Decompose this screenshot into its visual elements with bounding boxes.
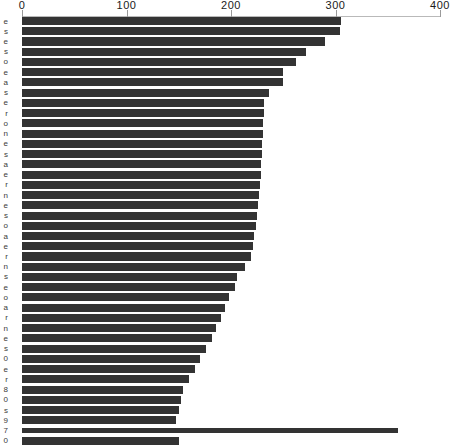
- bar[interactable]: [22, 345, 206, 353]
- bar[interactable]: [22, 191, 259, 199]
- bar[interactable]: [22, 89, 269, 97]
- bar-row: [0, 181, 459, 189]
- bar-row: [0, 17, 459, 25]
- bar[interactable]: [22, 27, 340, 35]
- bar[interactable]: [22, 201, 258, 209]
- bar-row: [0, 89, 459, 97]
- bar-row: [0, 68, 459, 76]
- bar-row: [0, 293, 459, 301]
- bar[interactable]: [22, 314, 221, 322]
- bar[interactable]: [22, 232, 254, 240]
- bar-row: [0, 242, 459, 250]
- bar[interactable]: [22, 324, 216, 332]
- x-tick-label-400: 400: [430, 0, 450, 11]
- x-tick-label-100: 100: [117, 0, 137, 11]
- bar-row: [0, 345, 459, 353]
- bar[interactable]: [22, 130, 263, 138]
- bar-row: [0, 252, 459, 260]
- bar-row: [0, 304, 459, 312]
- bar-row: [0, 283, 459, 291]
- x-tick-mark-100: [127, 10, 128, 17]
- bar-row: [0, 273, 459, 281]
- bar[interactable]: [22, 160, 261, 168]
- bar-row: [0, 48, 459, 56]
- x-tick-mark-400: [440, 10, 441, 17]
- bar[interactable]: [22, 99, 264, 107]
- bar-row: [0, 427, 459, 435]
- bar-row: [0, 416, 459, 424]
- bar-chart: esesoeaseronesaernesoaernseoarnes0er80s9…: [0, 0, 459, 447]
- bar[interactable]: [22, 37, 325, 45]
- x-tick-label-300: 300: [326, 0, 346, 11]
- x-axis: 0100200300400: [0, 0, 459, 17]
- bar[interactable]: [22, 355, 200, 363]
- bar[interactable]: [22, 48, 306, 56]
- bar[interactable]: [22, 375, 189, 383]
- bar-row: [0, 314, 459, 322]
- bar-row: [0, 396, 459, 404]
- bar-row: [0, 78, 459, 86]
- bar-row: [0, 355, 459, 363]
- x-tick-label-0: 0: [19, 0, 26, 11]
- bar[interactable]: [22, 334, 212, 342]
- bar-row: [0, 232, 459, 240]
- bar-row: [0, 191, 459, 199]
- bar[interactable]: [22, 68, 283, 76]
- bar-row: [0, 365, 459, 373]
- bar[interactable]: [22, 181, 260, 189]
- bar[interactable]: [22, 17, 341, 25]
- bar-row: [0, 58, 459, 66]
- bar-row: [0, 437, 459, 445]
- bar-row: [0, 140, 459, 148]
- bar[interactable]: [22, 406, 179, 414]
- bar-row: [0, 334, 459, 342]
- bar-row: [0, 324, 459, 332]
- bar[interactable]: [22, 416, 176, 424]
- x-tick-mark-0: [22, 10, 23, 17]
- x-tick-label-200: 200: [221, 0, 241, 11]
- x-tick-mark-200: [231, 10, 232, 17]
- bar-row: [0, 222, 459, 230]
- plot-area: [0, 17, 459, 447]
- bar[interactable]: [22, 140, 262, 148]
- bar-row: [0, 150, 459, 158]
- bar[interactable]: [22, 283, 235, 291]
- x-tick-mark-300: [336, 10, 337, 17]
- bar[interactable]: [22, 273, 237, 281]
- bar-row: [0, 212, 459, 220]
- bar[interactable]: [22, 304, 225, 312]
- bar[interactable]: [22, 437, 179, 445]
- bar[interactable]: [22, 263, 245, 271]
- bar-row: [0, 406, 459, 414]
- bar-row: [0, 263, 459, 271]
- bar[interactable]: [22, 109, 264, 117]
- bar[interactable]: [22, 171, 261, 179]
- bar[interactable]: [22, 58, 296, 66]
- bar-row: [0, 201, 459, 209]
- bar-row: [0, 119, 459, 127]
- bar-row: [0, 386, 459, 394]
- bar-row: [0, 99, 459, 107]
- bar[interactable]: [22, 119, 263, 127]
- bar[interactable]: [22, 242, 253, 250]
- bar[interactable]: [22, 150, 262, 158]
- bar-row: [0, 171, 459, 179]
- bar-row: [0, 27, 459, 35]
- bar[interactable]: [22, 428, 398, 433]
- bar-row: [0, 130, 459, 138]
- bar-row: [0, 109, 459, 117]
- bar[interactable]: [22, 212, 257, 220]
- bar[interactable]: [22, 78, 283, 86]
- bar-row: [0, 160, 459, 168]
- bar[interactable]: [22, 396, 181, 404]
- bar[interactable]: [22, 222, 256, 230]
- bar[interactable]: [22, 293, 229, 301]
- bar[interactable]: [22, 252, 251, 260]
- bar[interactable]: [22, 365, 195, 373]
- bar[interactable]: [22, 386, 183, 394]
- bar-row: [0, 37, 459, 45]
- bar-row: [0, 375, 459, 383]
